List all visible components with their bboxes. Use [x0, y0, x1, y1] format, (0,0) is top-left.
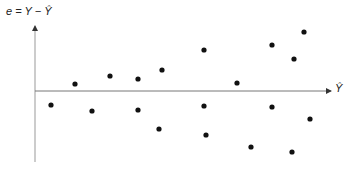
data-point — [248, 144, 253, 149]
data-point — [107, 73, 112, 78]
data-point — [48, 102, 53, 107]
data-point — [89, 108, 94, 113]
data-points — [48, 29, 312, 154]
data-point — [289, 149, 294, 154]
data-point — [269, 104, 274, 109]
data-point — [269, 42, 274, 47]
y-axis-label: e = Y − Ŷ — [6, 5, 51, 17]
data-point — [301, 29, 306, 34]
data-point — [234, 80, 239, 85]
data-point — [201, 47, 206, 52]
data-point — [201, 103, 206, 108]
data-point — [203, 132, 208, 137]
data-point — [307, 116, 312, 121]
residual-plot — [0, 0, 357, 170]
data-point — [291, 56, 296, 61]
data-point — [135, 107, 140, 112]
data-point — [156, 126, 161, 131]
x-axis-label: Ŷ — [335, 82, 342, 94]
data-point — [135, 76, 140, 81]
data-point — [72, 81, 77, 86]
data-point — [159, 67, 164, 72]
